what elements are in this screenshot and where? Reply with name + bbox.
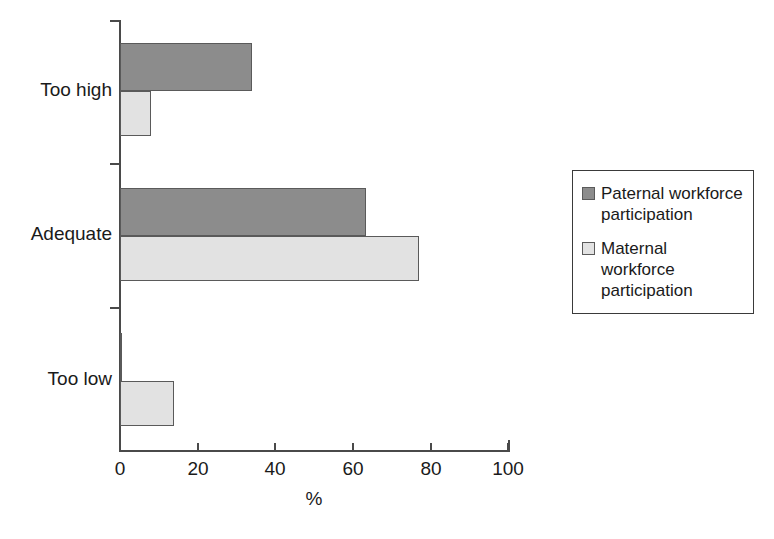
x-axis-tick-label-60: 60 [323,458,383,480]
x-axis-line [120,450,510,452]
x-axis-tick-label-100: 100 [478,458,538,480]
category-label-adequate: Adequate [8,223,120,245]
bar-maternal-too-high [120,91,151,136]
bar-paternal-too-low [120,333,122,381]
legend-item-maternal: Maternal workforce participation [582,238,743,301]
x-axis-tick-label-20: 20 [168,458,228,480]
legend-label-maternal: Maternal workforce participation [601,238,743,301]
legend-swatch-paternal-icon [582,187,595,200]
bar-paternal-adequate [120,188,366,236]
x-axis-title: % [264,488,364,510]
x-axis-tick-label-40: 40 [245,458,305,480]
x-axis-tick-80 [430,443,432,452]
bar-chart: 0 20 40 60 80 100 Too high Adequate Too … [0,0,774,539]
legend: Paternal workforce participation Materna… [572,170,754,314]
bar-paternal-too-high [120,43,252,91]
x-axis-tick-100 [507,443,509,452]
legend-label-paternal: Paternal workforce participation [601,183,743,225]
legend-swatch-maternal-icon [582,242,595,255]
bar-maternal-too-low [120,381,174,426]
x-axis-tick-label-80: 80 [401,458,461,480]
bar-maternal-adequate [120,236,419,281]
category-label-too-high: Too high [8,79,120,101]
x-axis-tick-40 [274,443,276,452]
y-axis-category-labels: Too high Adequate Too low [0,0,120,539]
x-axis-tick-20 [197,443,199,452]
legend-item-paternal: Paternal workforce participation [582,183,743,225]
x-axis-tick-60 [352,443,354,452]
category-label-too-low: Too low [8,368,120,390]
